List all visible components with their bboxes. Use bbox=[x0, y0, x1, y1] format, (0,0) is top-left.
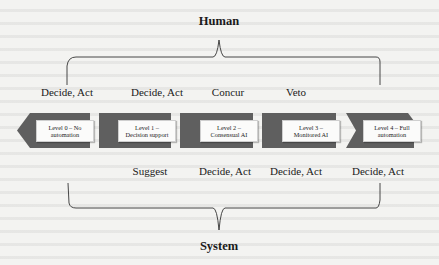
system-role-level1: Suggest bbox=[133, 165, 168, 177]
level-2-line2: Consensual AI bbox=[211, 131, 248, 139]
level-0-line1: Level 0 – No bbox=[48, 124, 81, 132]
human-role-level2: Concur bbox=[212, 86, 244, 98]
system-role-level3: Decide, Act bbox=[270, 165, 322, 177]
human-role-level1: Decide, Act bbox=[131, 86, 183, 98]
human-brace bbox=[67, 40, 380, 85]
level-box-2: Level 2 – Consensual AI bbox=[200, 120, 258, 142]
level-box-1: Level 1 – Decision support bbox=[118, 120, 176, 142]
level-4-line2: automation bbox=[378, 131, 406, 139]
level-0-line2: automation bbox=[51, 131, 79, 139]
human-role-level3: Veto bbox=[286, 86, 306, 98]
level-box-0: Level 0 – No automation bbox=[36, 120, 94, 142]
human-role-level0: Decide, Act bbox=[41, 86, 93, 98]
system-role-level2: Decide, Act bbox=[199, 165, 251, 177]
level-3-line2: Monitored AI bbox=[294, 131, 328, 139]
level-3-line1: Level 3 – bbox=[299, 124, 323, 132]
level-1-line2: Decision support bbox=[126, 131, 169, 139]
level-2-line1: Level 2 – bbox=[217, 124, 241, 132]
level-4-line1: Level 4 – Full bbox=[374, 124, 410, 132]
system-role-level4: Decide, Act bbox=[352, 165, 404, 177]
level-1-line1: Level 1 – bbox=[135, 124, 159, 132]
level-box-4: Level 4 – Full automation bbox=[363, 120, 421, 142]
level-box-3: Level 3 – Monitored AI bbox=[282, 120, 340, 142]
system-brace bbox=[68, 183, 380, 230]
